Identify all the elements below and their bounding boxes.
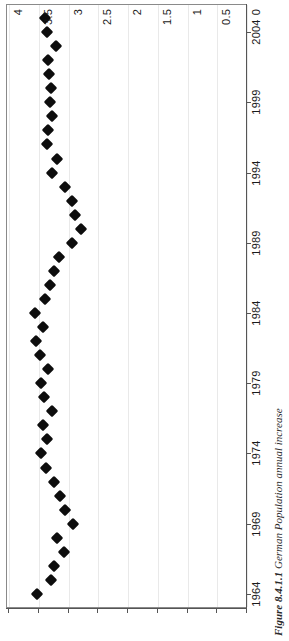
year-axis-label: 2004 — [250, 19, 262, 44]
value-axis-tick — [8, 608, 9, 613]
year-axis-label: 1989 — [250, 230, 262, 255]
value-axis-tick — [97, 608, 98, 613]
gridline — [247, 5, 248, 607]
value-axis-tick — [246, 608, 247, 613]
value-axis-tick — [38, 608, 39, 613]
gridline — [217, 5, 218, 607]
gridline — [98, 5, 99, 607]
gridline — [9, 5, 10, 607]
gridline — [158, 5, 159, 607]
value-axis-tick — [187, 608, 188, 613]
value-axis-tick — [216, 608, 217, 613]
value-axis-tick — [68, 608, 69, 613]
caption-text: German Population annual increase — [272, 408, 284, 569]
year-axis-label: 1999 — [250, 90, 262, 115]
value-axis-label: 1.5 — [161, 9, 173, 25]
year-axis-label: 1979 — [250, 371, 262, 396]
value-axis — [6, 608, 247, 609]
year-axis — [246, 4, 247, 608]
value-axis-label: 0 — [250, 9, 262, 15]
gridline — [128, 5, 129, 607]
value-axis-label: 3 — [72, 9, 84, 15]
year-axis-label: 1994 — [250, 160, 262, 185]
gridline — [188, 5, 189, 607]
year-axis-label: 1974 — [250, 441, 262, 466]
value-axis-label: 3.5 — [42, 9, 54, 25]
gridline — [39, 5, 40, 607]
value-axis-label: 0.5 — [220, 9, 232, 25]
value-axis-label: 2 — [131, 9, 143, 15]
value-axis-tick — [127, 608, 128, 613]
year-axis-label: 1969 — [250, 511, 262, 536]
year-axis-label: 1964 — [250, 581, 262, 606]
figure-caption: Figure 8.4.1.1 German Population annual … — [272, 408, 284, 636]
year-axis-label: 1984 — [250, 300, 262, 325]
value-axis-tick — [157, 608, 158, 613]
figure-page: Figure 8.4.1.1 German Population annual … — [0, 0, 289, 641]
plot-area — [6, 4, 247, 608]
gridline — [69, 5, 70, 607]
caption-label: Figure 8.4.1.1 — [272, 572, 284, 636]
value-axis-label: 4 — [12, 9, 24, 15]
value-axis-label: 2.5 — [101, 9, 113, 25]
value-axis-label: 1 — [191, 9, 203, 15]
